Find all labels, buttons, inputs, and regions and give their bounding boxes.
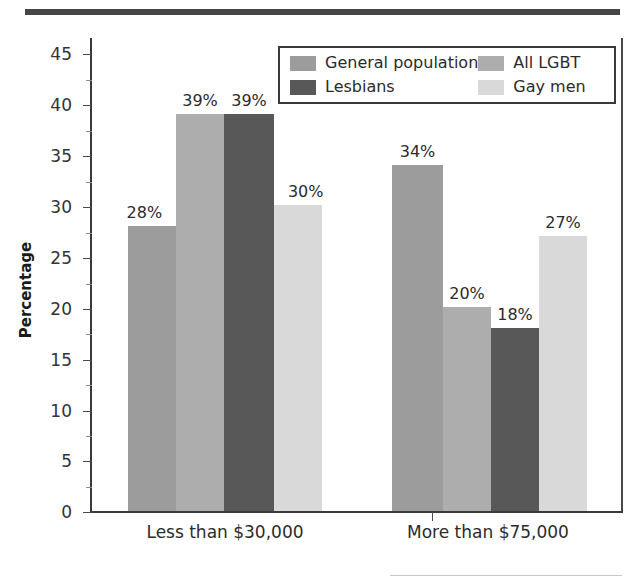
- plot-right-border: [621, 38, 623, 512]
- bar-general-population-more-75k[interactable]: 34%: [392, 165, 443, 511]
- bar-gay-men-more-75k[interactable]: 27%: [539, 236, 587, 511]
- y-tick-label-10: 10: [50, 403, 72, 420]
- y-tick-label-45: 45: [50, 46, 72, 63]
- y-tick-label-0: 0: [61, 504, 72, 521]
- bar-gay-men-less-30k[interactable]: 30%: [274, 205, 322, 511]
- y-tick-minor-42_5: [86, 80, 92, 81]
- legend-swatch-all-lgbt: [478, 56, 504, 71]
- bar-value-label: 39%: [182, 93, 218, 109]
- y-tick-minor-12_5: [86, 385, 92, 386]
- bar-lesbians-less-30k[interactable]: 39%: [224, 114, 274, 511]
- legend-entry-all-lgbt[interactable]: All LGBT: [478, 55, 608, 71]
- legend-entry-gay-men[interactable]: Gay men: [478, 79, 608, 95]
- y-tick-label-20: 20: [50, 301, 72, 318]
- x-category-label-more-75k: More than $75,000: [407, 524, 569, 541]
- legend-label-gay-men: Gay men: [513, 79, 585, 95]
- y-tick-15: 15: [83, 360, 92, 361]
- y-tick-20: 20: [83, 309, 92, 310]
- y-tick-minor-32_5: [86, 182, 92, 183]
- chart-figure: Percentage 0 5 10 15 20 25 30: [0, 0, 644, 584]
- bar-all-lgbt-less-30k[interactable]: 39%: [176, 114, 224, 511]
- y-tick-label-25: 25: [50, 250, 72, 267]
- y-tick-minor-27_5: [86, 233, 92, 234]
- bar-value-label: 34%: [400, 144, 436, 160]
- legend-entry-general-population[interactable]: General population: [290, 55, 478, 71]
- y-tick-minor-37_5: [86, 131, 92, 132]
- y-tick-35: 35: [83, 156, 92, 157]
- y-tick-minor-2_5: [86, 487, 92, 488]
- bar-value-label: 18%: [497, 307, 533, 323]
- y-tick-10: 10: [83, 411, 92, 412]
- y-tick-label-30: 30: [50, 199, 72, 216]
- bar-general-population-less-30k[interactable]: 28%: [128, 226, 176, 511]
- legend-entry-lesbians[interactable]: Lesbians: [290, 79, 478, 95]
- x-tick-group-separator: [432, 512, 433, 521]
- bar-value-label: 39%: [231, 93, 267, 109]
- y-tick-30: 30: [83, 207, 92, 208]
- y-tick-5: 5: [83, 461, 92, 462]
- y-tick-label-35: 35: [50, 148, 72, 165]
- y-tick-label-5: 5: [61, 453, 72, 470]
- y-tick-label-15: 15: [50, 352, 72, 369]
- y-tick-0: 0: [83, 512, 92, 513]
- bar-value-label: 28%: [127, 205, 163, 221]
- legend-label-all-lgbt: All LGBT: [513, 55, 580, 71]
- legend-swatch-gay-men: [478, 80, 504, 95]
- plot-area: 0 5 10 15 20 25 30 35 40: [90, 38, 623, 512]
- legend-label-lesbians: Lesbians: [325, 79, 395, 95]
- y-axis-title: Percentage: [17, 242, 35, 339]
- legend-label-general-population: General population: [325, 55, 478, 71]
- y-tick-label-40: 40: [50, 97, 72, 114]
- bar-value-label: 30%: [288, 184, 324, 200]
- bar-value-label: 20%: [449, 286, 485, 302]
- bar-all-lgbt-more-75k[interactable]: 20%: [443, 307, 491, 511]
- y-tick-25: 25: [83, 258, 92, 259]
- y-tick-minor-22_5: [86, 284, 92, 285]
- y-tick-minor-17_5: [86, 334, 92, 335]
- y-tick-minor-7_5: [86, 436, 92, 437]
- bottom-divider-rule: [390, 575, 622, 576]
- bar-value-label: 27%: [545, 215, 581, 231]
- legend-swatch-general-population: [290, 56, 316, 71]
- y-tick-40: 40: [83, 105, 92, 106]
- bar-lesbians-more-75k[interactable]: 18%: [491, 328, 539, 511]
- top-divider-rule: [25, 9, 620, 15]
- x-category-label-less-30k: Less than $30,000: [146, 524, 303, 541]
- legend-swatch-lesbians: [290, 80, 316, 95]
- y-tick-45: 45: [83, 54, 92, 55]
- y-axis-line: [90, 38, 92, 512]
- x-axis-line: [90, 511, 623, 513]
- chart-legend: General population All LGBT Lesbians Gay…: [278, 46, 616, 104]
